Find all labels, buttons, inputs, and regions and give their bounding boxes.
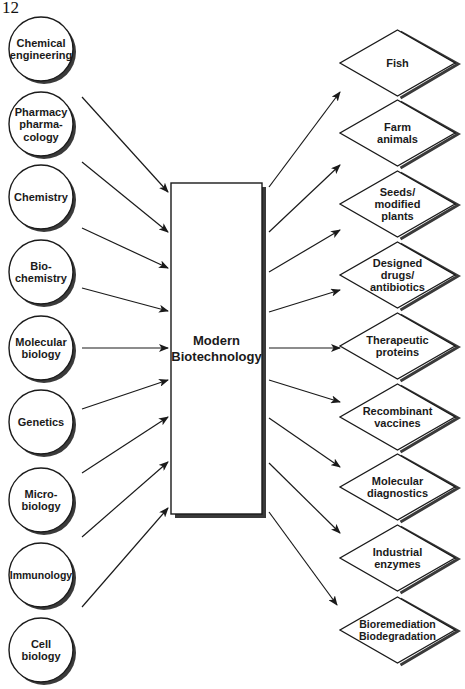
output-node-bioremediation-biodegradation: BioremediationBiodegradation	[340, 597, 458, 665]
output-label: Molecular	[372, 475, 424, 487]
input-node-microbiology: Micro-biology	[9, 468, 76, 535]
output-label: proteins	[376, 346, 419, 358]
arrow-in-cell-biology	[82, 508, 168, 607]
input-label: chemistry	[15, 272, 68, 284]
arrow-in-biochemistry	[82, 288, 168, 311]
input-label: Chemical	[17, 37, 66, 49]
biotech-diagram: Modern Biotechnology Chemicalengineering…	[0, 0, 465, 689]
input-label: Pharmacy	[15, 106, 68, 118]
arrow-in-pharmacy-pharmacology	[82, 162, 168, 232]
output-label: vaccines	[374, 417, 420, 429]
input-node-cell-biology: Cellbiology	[9, 618, 76, 685]
input-label: Immunology	[10, 569, 73, 581]
center-label-line-1: Modern	[193, 333, 240, 348]
input-label: biology	[21, 348, 61, 360]
output-label: Farm	[384, 121, 411, 133]
output-label: Therapeutic	[366, 334, 428, 346]
output-applications: FishFarmanimalsSeeds/modifiedplantsDesig…	[340, 30, 458, 665]
arrow-in-chemistry	[82, 228, 168, 268]
input-label: cology	[23, 131, 59, 143]
output-label: Designed	[373, 257, 423, 269]
input-label: Micro-	[25, 488, 58, 500]
output-label: Bioremediation	[359, 618, 435, 630]
input-arrows	[82, 97, 168, 607]
output-label: enzymes	[374, 558, 420, 570]
output-label: Industrial	[373, 546, 423, 558]
center-label-line-2: Biotechnology	[171, 349, 262, 364]
center-node-modern-biotechnology: Modern Biotechnology	[171, 183, 266, 518]
input-node-chemical-engineering: Chemicalengineering	[9, 17, 76, 84]
output-label: diagnostics	[367, 487, 428, 499]
input-label: Cell	[31, 638, 51, 650]
input-node-immunology: Immunology	[9, 543, 76, 610]
arrow-in-genetics	[82, 380, 168, 409]
arrow-in-microbiology	[82, 417, 168, 473]
output-arrows	[269, 92, 340, 605]
arrow-out-farm-animals	[269, 165, 340, 232]
output-label: Fish	[386, 57, 409, 69]
input-node-molecular-biology: Molecularbiology	[9, 316, 76, 383]
output-node-farm-animals: Farmanimals	[340, 100, 458, 168]
output-node-seeds-modified-plants: Seeds/modifiedplants	[340, 171, 458, 239]
input-label: engineering	[10, 49, 72, 61]
input-label: biology	[21, 650, 61, 662]
input-node-pharmacy-pharmacology: Pharmacypharma-cology	[9, 92, 76, 159]
input-label: Genetics	[18, 416, 64, 428]
output-label: Recombinant	[363, 405, 433, 417]
arrow-out-fish	[269, 92, 340, 187]
arrow-in-immunology	[82, 462, 168, 537]
output-label: Biodegradation	[359, 630, 436, 642]
output-label: animals	[377, 133, 418, 145]
arrow-out-industrial-enzymes	[269, 463, 340, 533]
input-label: Bio-	[30, 260, 52, 272]
output-label: antibiotics	[370, 281, 425, 293]
arrow-out-bioremediation-biodegradation	[269, 512, 337, 605]
input-label: Molecular	[15, 336, 67, 348]
arrow-out-molecular-diagnostics	[269, 418, 340, 467]
arrow-out-recombinant-vaccines	[269, 380, 340, 402]
output-label: drugs/	[381, 269, 415, 281]
output-node-therapeutic-proteins: Therapeuticproteins	[340, 313, 458, 381]
output-node-industrial-enzymes: Industrialenzymes	[340, 525, 458, 593]
output-label: modified	[375, 198, 421, 210]
input-node-chemistry: Chemistry	[9, 165, 76, 232]
output-node-designed-drugs-antibiotics: Designeddrugs/antibiotics	[340, 242, 458, 310]
input-disciplines: ChemicalengineeringPharmacypharma-cology…	[9, 17, 76, 685]
input-node-biochemistry: Bio-chemistry	[9, 240, 76, 307]
output-node-molecular-diagnostics: Moleculardiagnostics	[340, 454, 458, 522]
arrow-out-seeds-modified-plants	[269, 230, 340, 272]
output-node-fish: Fish	[340, 30, 458, 98]
input-label: biology	[21, 500, 61, 512]
input-node-genetics: Genetics	[9, 390, 76, 457]
arrow-in-chemical-engineering	[82, 97, 168, 192]
arrow-out-designed-drugs-antibiotics	[269, 290, 340, 312]
output-node-recombinant-vaccines: Recombinantvaccines	[340, 384, 458, 452]
output-label: Seeds/	[380, 186, 415, 198]
output-label: plants	[381, 210, 413, 222]
input-label: pharma-	[19, 118, 63, 130]
input-label: Chemistry	[14, 191, 69, 203]
